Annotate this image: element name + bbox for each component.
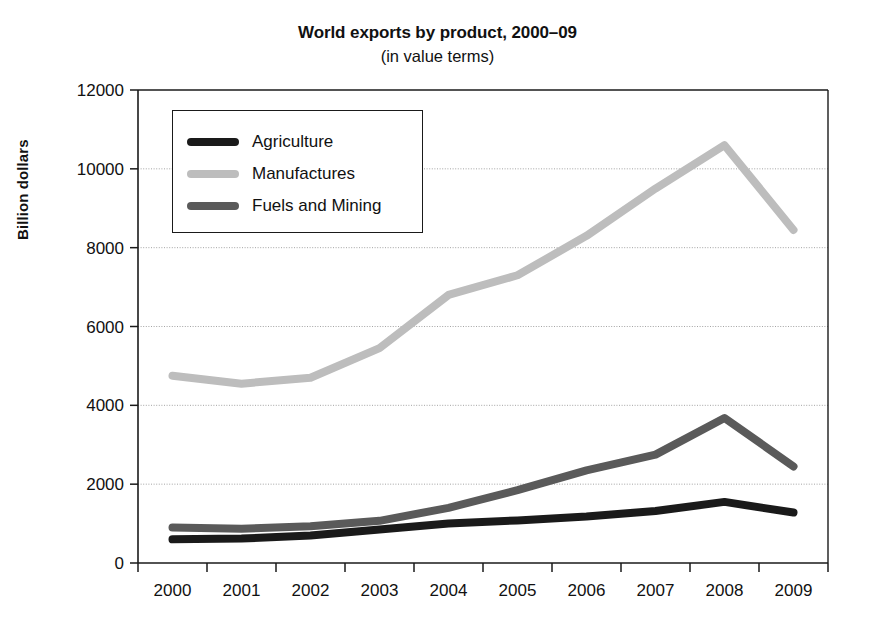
- y-tick-label-12000: 12000: [77, 81, 124, 100]
- legend-item-fuels-and-mining[interactable]: Fuels and Mining: [187, 190, 422, 222]
- chart-figure: World exports by product, 2000–09 (in va…: [0, 0, 875, 641]
- x-tick-label-2000: 2000: [154, 581, 192, 600]
- chart-legend: Agriculture Manufactures Fuels and Minin…: [172, 110, 423, 233]
- legend-label-manufactures: Manufactures: [252, 164, 355, 184]
- x-tick-label-2002: 2002: [292, 581, 330, 600]
- legend-item-manufactures[interactable]: Manufactures: [187, 158, 422, 190]
- y-tick-label-0: 0: [115, 554, 124, 573]
- x-tick-label-2007: 2007: [637, 581, 675, 600]
- y-tick-label-6000: 6000: [86, 318, 124, 337]
- legend-swatch-agriculture: [187, 138, 239, 146]
- x-tick-label-2001: 2001: [223, 581, 261, 600]
- series-line-fuels-and-mining: [173, 418, 794, 529]
- series-line-agriculture: [173, 502, 794, 539]
- line-chart-plot: 0200040006000800010000120002000200120022…: [0, 0, 875, 641]
- legend-label-fuels-and-mining: Fuels and Mining: [252, 196, 381, 216]
- legend-item-agriculture[interactable]: Agriculture: [187, 126, 422, 158]
- legend-swatch-manufactures: [187, 170, 239, 178]
- y-tick-label-2000: 2000: [86, 475, 124, 494]
- legend-label-agriculture: Agriculture: [252, 132, 333, 152]
- x-tick-label-2004: 2004: [430, 581, 468, 600]
- y-tick-label-10000: 10000: [77, 160, 124, 179]
- x-tick-label-2009: 2009: [775, 581, 813, 600]
- x-tick-label-2006: 2006: [568, 581, 606, 600]
- x-tick-label-2005: 2005: [499, 581, 537, 600]
- x-tick-label-2008: 2008: [706, 581, 744, 600]
- y-tick-label-4000: 4000: [86, 396, 124, 415]
- x-tick-label-2003: 2003: [361, 581, 399, 600]
- y-tick-label-8000: 8000: [86, 239, 124, 258]
- legend-swatch-fuels-and-mining: [187, 202, 239, 210]
